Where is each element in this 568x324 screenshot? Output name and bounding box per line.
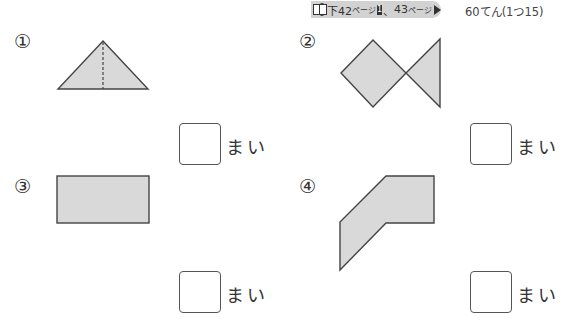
answer-box-1[interactable]	[179, 123, 221, 165]
shape-3-rectangle	[57, 176, 149, 223]
unit-label-1: まい	[226, 133, 268, 159]
unit-label-2: まい	[517, 133, 559, 159]
unit-label-3: まい	[226, 281, 268, 307]
unit-label-4: まい	[517, 281, 559, 307]
shape-1-triangle	[58, 41, 148, 89]
answer-box-2[interactable]	[470, 123, 512, 165]
answer-box-3[interactable]	[179, 271, 221, 313]
shape-4-bent-hexagon	[340, 176, 434, 270]
shape-2-fish	[341, 39, 440, 107]
answer-box-4[interactable]	[470, 271, 512, 313]
